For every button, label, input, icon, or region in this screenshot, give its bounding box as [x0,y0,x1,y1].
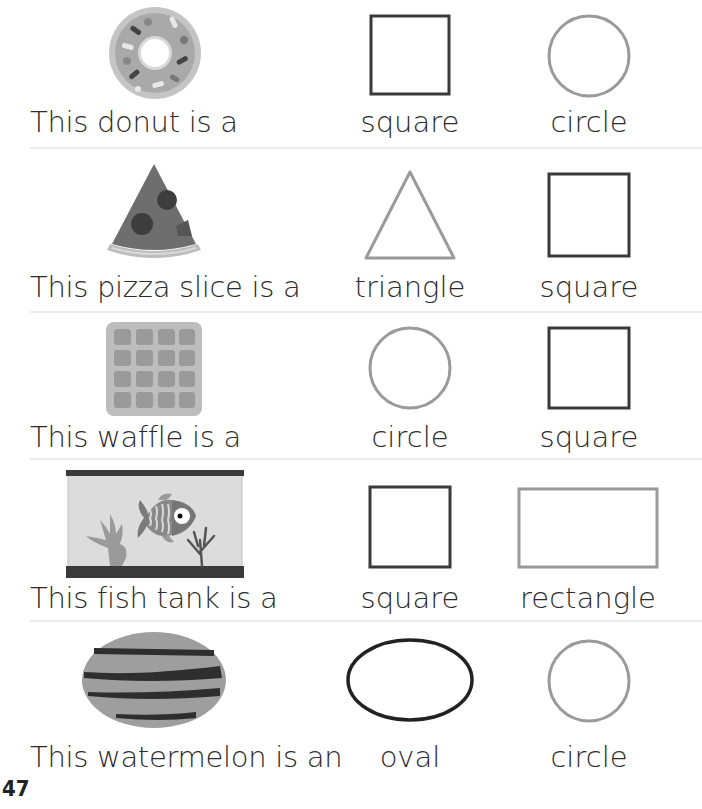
waffle-icon [106,322,202,416]
pizza-slice-icon [106,164,202,264]
page-number: 47 [2,776,30,801]
row-divider [30,311,702,313]
square-shape-option[interactable] [368,13,452,97]
fish-tank-icon [66,470,244,578]
option-label-rectangle[interactable]: rectangle [508,581,668,615]
circle-shape-option[interactable] [367,325,453,411]
option-label-square[interactable]: square [330,581,490,615]
option-label-oval[interactable]: oval [330,740,490,774]
row-divider [30,147,702,149]
option-label-square[interactable]: square [509,420,669,454]
option-label-square[interactable]: square [330,105,490,139]
option-label-square[interactable]: square [509,270,669,304]
circle-shape-option[interactable] [546,13,632,99]
watermelon-icon [80,630,228,730]
square-shape-option[interactable] [367,484,453,570]
option-label-triangle[interactable]: triangle [330,270,490,304]
prompt-text: This watermelon is an [30,740,342,774]
row-divider [30,458,702,460]
square-shape-option[interactable] [546,171,632,259]
prompt-text: This waffle is a [30,420,241,454]
donut-icon [108,6,202,100]
prompt-text: This fish tank is a [30,581,277,615]
option-label-circle[interactable]: circle [509,105,669,139]
prompt-text: This donut is a [30,105,238,139]
prompt-text: This pizza slice is a [30,270,300,304]
circle-shape-option[interactable] [546,638,632,724]
triangle-shape-option[interactable] [362,168,458,262]
option-label-circle[interactable]: circle [330,420,490,454]
oval-shape-option[interactable] [344,636,476,724]
square-shape-option[interactable] [546,325,632,411]
option-label-circle[interactable]: circle [509,740,669,774]
row-divider [30,620,702,622]
worksheet-row-donut: This donut is a square circle [0,0,702,150]
rectangle-shape-option[interactable] [516,486,660,570]
